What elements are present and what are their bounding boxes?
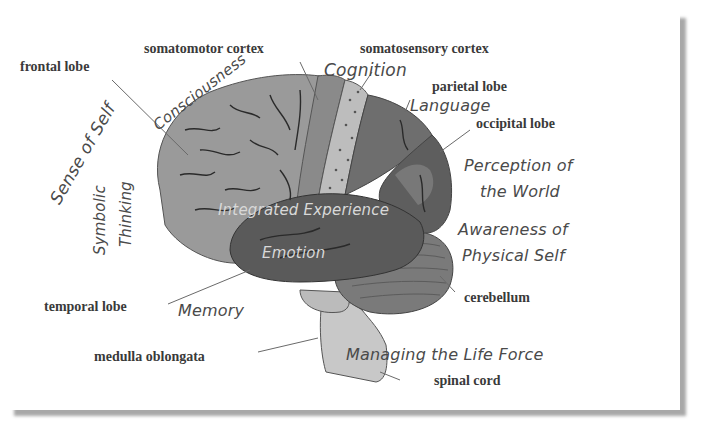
label-thinking: Thinking xyxy=(119,181,134,247)
label-parietal-lobe: parietal lobe xyxy=(432,80,507,94)
label-perception-line2: the World xyxy=(480,184,560,200)
label-memory: Memory xyxy=(178,303,244,319)
label-managing-life-force: Managing the Life Force xyxy=(346,347,544,363)
label-symbolic: Symbolic xyxy=(93,185,108,255)
label-spinal-cord: spinal cord xyxy=(434,374,501,388)
label-temporal-lobe: temporal lobe xyxy=(44,300,127,314)
label-somatosensory-cortex: somatosensory cortex xyxy=(360,42,489,56)
label-awareness-line1: Awareness of xyxy=(458,222,568,238)
label-awareness-line2: Physical Self xyxy=(462,248,565,264)
label-medulla-oblongata: medulla oblongata xyxy=(94,350,205,364)
label-occipital-lobe: occipital lobe xyxy=(476,117,555,131)
label-integrated-experience: Integrated Experience xyxy=(218,203,389,218)
label-emotion: Emotion xyxy=(262,246,325,261)
label-frontal-lobe: frontal lobe xyxy=(20,60,89,74)
label-language: Language xyxy=(410,98,491,114)
label-cognition: Cognition xyxy=(324,62,407,79)
label-perception-line1: Perception of xyxy=(464,158,573,174)
label-somatomotor-cortex: somatomotor cortex xyxy=(144,42,264,56)
label-cerebellum: cerebellum xyxy=(464,291,530,305)
